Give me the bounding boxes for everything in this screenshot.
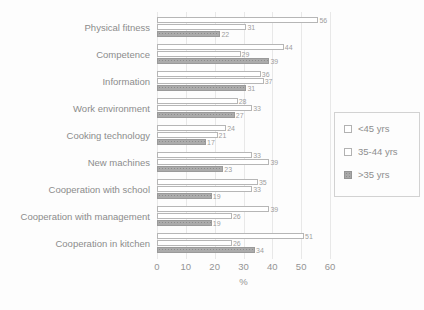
bar-row: 33	[157, 105, 330, 111]
bar-row: 39	[157, 206, 330, 212]
bar-row: 33	[157, 186, 330, 192]
bar	[157, 17, 318, 23]
bar-value-label: 27	[236, 112, 244, 119]
bar-row: 44	[157, 44, 330, 50]
bar	[157, 240, 232, 246]
bar-value-label: 26	[233, 240, 241, 247]
bar-row: 31	[157, 85, 330, 91]
bar-row: 22	[157, 31, 330, 37]
category-label: Competence	[96, 49, 150, 60]
bar-row: 34	[157, 247, 330, 253]
legend-label: >35 yrs	[358, 169, 389, 180]
bar-row: 23	[157, 166, 330, 172]
bar	[157, 247, 255, 253]
legend-marker	[344, 125, 352, 133]
bar-row: 36	[157, 71, 330, 77]
bar-row: 39	[157, 159, 330, 165]
bar-row: 28	[157, 98, 330, 104]
bar-row: 19	[157, 220, 330, 226]
bar-value-label: 17	[207, 139, 215, 146]
bar-group: Cooperation in kitchen512634	[157, 233, 330, 253]
bar-row: 39	[157, 58, 330, 64]
bar-row: 19	[157, 193, 330, 199]
x-tick-label: 30	[238, 261, 249, 272]
legend-label: <45 yrs	[358, 123, 389, 134]
category-label: Work environment	[73, 103, 150, 114]
bar-group: Physical fitness563122	[157, 17, 330, 37]
bar-value-label: 35	[259, 179, 267, 186]
bar	[157, 220, 212, 226]
x-tick-label: 60	[325, 261, 336, 272]
bar-row: 56	[157, 17, 330, 23]
bar-value-label: 39	[270, 58, 278, 65]
bar-value-label: 36	[262, 71, 270, 78]
bar-value-label: 29	[242, 51, 250, 58]
bar-value-label: 33	[253, 152, 261, 159]
bar	[157, 159, 269, 165]
x-tick-label: 40	[267, 261, 278, 272]
category-label: Cooperation with management	[21, 211, 150, 222]
legend-item: >35 yrs	[344, 169, 415, 180]
bar-row: 24	[157, 125, 330, 131]
bar-group: Information363731	[157, 71, 330, 91]
bar	[157, 85, 246, 91]
bar-value-label: 19	[213, 193, 221, 200]
bar-row: 37	[157, 78, 330, 84]
bar-chart-figure: Physical fitness563122Competence442939In…	[0, 0, 424, 310]
bar-row: 33	[157, 152, 330, 158]
bar-value-label: 19	[213, 220, 221, 227]
bar	[157, 105, 252, 111]
bar	[157, 152, 252, 158]
bar-value-label: 31	[247, 24, 255, 31]
x-tick-label: 20	[209, 261, 220, 272]
bar	[157, 51, 241, 57]
bar-group: Cooperation with management392619	[157, 206, 330, 226]
bar-value-label: 21	[219, 132, 227, 139]
bar-value-label: 24	[227, 125, 235, 132]
bar	[157, 166, 223, 172]
x-tick-label: 10	[181, 261, 192, 272]
legend: <45 yrs35-44 yrs>35 yrs	[334, 112, 420, 197]
category-label: Information	[102, 76, 150, 87]
gridline	[330, 12, 331, 259]
bar-row: 26	[157, 240, 330, 246]
bar-group: Cooking technology242117	[157, 125, 330, 145]
bar-value-label: 22	[221, 31, 229, 38]
bar-value-label: 51	[305, 233, 313, 240]
bar-group: Cooperation with school353319	[157, 179, 330, 199]
bar	[157, 132, 218, 138]
bar-value-label: 39	[270, 159, 278, 166]
bar	[157, 31, 220, 37]
bar-row: 17	[157, 139, 330, 145]
bar-row: 35	[157, 179, 330, 185]
bar-row: 51	[157, 233, 330, 239]
bar	[157, 179, 258, 185]
plot-area: Physical fitness563122Competence442939In…	[157, 14, 330, 257]
bar-group: Competence442939	[157, 44, 330, 64]
x-tick-label: 50	[296, 261, 307, 272]
bar-value-label: 28	[239, 98, 247, 105]
bar	[157, 44, 284, 50]
x-tick-label: 0	[154, 261, 159, 272]
bar-value-label: 33	[253, 105, 261, 112]
legend-item: 35-44 yrs	[344, 146, 415, 157]
bar	[157, 112, 235, 118]
bar-row: 26	[157, 213, 330, 219]
bar	[157, 186, 252, 192]
category-label: New machines	[88, 157, 150, 168]
bar-row: 21	[157, 132, 330, 138]
bar-row: 27	[157, 112, 330, 118]
legend-marker	[344, 148, 352, 156]
bar-group: Work environment283327	[157, 98, 330, 118]
legend-marker	[344, 171, 352, 179]
bar	[157, 193, 212, 199]
bar	[157, 24, 246, 30]
bar-group: New machines333923	[157, 152, 330, 172]
category-label: Cooperation in kitchen	[55, 238, 150, 249]
bar-value-label: 33	[253, 186, 261, 193]
x-axis-label: %	[239, 276, 247, 287]
bar-row: 29	[157, 51, 330, 57]
bar	[157, 125, 226, 131]
category-label: Cooperation with school	[49, 184, 150, 195]
bar	[157, 71, 261, 77]
